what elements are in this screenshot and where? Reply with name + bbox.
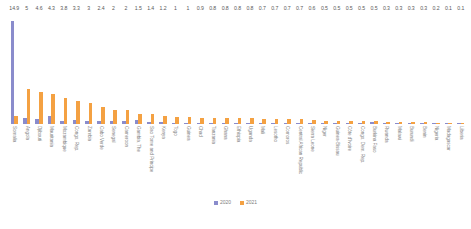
bar-2021 xyxy=(200,118,204,124)
x-label-cell: Djibouti xyxy=(33,125,45,187)
bar-2021 xyxy=(411,122,415,124)
bar-value-label: 3.3 xyxy=(73,6,80,11)
bar-group: 0.1 xyxy=(455,6,467,124)
bar-value-label: 0.1 xyxy=(445,6,452,11)
x-axis-tick-label: Central African Republic xyxy=(297,126,302,174)
x-label-cell: Rwanda xyxy=(380,125,392,187)
x-label-cell: Mali xyxy=(256,125,268,187)
x-axis-tick-label: Somalia xyxy=(12,126,17,142)
x-label-cell: Tanzania xyxy=(207,125,219,187)
x-label-cell: Guinea-Bissau xyxy=(331,125,343,187)
bars-wrap xyxy=(293,12,305,124)
bar-group: 1.4 xyxy=(144,6,156,124)
bar-2021 xyxy=(386,122,390,124)
bars-wrap xyxy=(120,12,132,124)
bars-wrap xyxy=(157,12,169,124)
x-label-cell: Comoros xyxy=(281,125,293,187)
x-axis-tick-label: Liberia xyxy=(459,126,464,139)
x-axis-tick-label: Chad xyxy=(198,126,203,137)
bar-group: 0.5 xyxy=(355,6,367,124)
x-label-cell: Uganda xyxy=(244,125,256,187)
bar-2021 xyxy=(324,121,328,124)
bar-value-label: 0.5 xyxy=(371,6,378,11)
x-label-cell: Guinea xyxy=(182,125,194,187)
bar-value-label: 14.9 xyxy=(9,6,19,11)
legend-item-2021[interactable]: 2021 xyxy=(240,200,257,205)
x-label-cell: Malawi xyxy=(393,125,405,187)
x-label-cell: Chad xyxy=(194,125,206,187)
x-label-cell: Lesotho xyxy=(269,125,281,187)
bar-value-label: 2.4 xyxy=(98,6,105,11)
x-label-cell: Benin xyxy=(417,125,429,187)
x-axis-tick-label: Madagascar xyxy=(446,126,451,151)
legend-swatch-icon xyxy=(214,201,218,205)
bar-2021 xyxy=(76,101,80,124)
bars-wrap xyxy=(417,12,429,124)
x-label-cell: Congo, Rep. xyxy=(70,125,82,187)
x-label-cell: Gambia, The xyxy=(132,125,144,187)
x-axis-tick-label: Burundi xyxy=(409,126,414,141)
bar-value-label: 4.6 xyxy=(36,6,43,11)
chart-legend: 20202021 xyxy=(0,200,471,205)
bars-wrap xyxy=(231,12,243,124)
bars-wrap xyxy=(70,12,82,124)
bar-group: 0.3 xyxy=(393,6,405,124)
x-axis-tick-label: Lesotho xyxy=(272,126,277,142)
bar-value-label: 1.2 xyxy=(160,6,167,11)
x-axis-tick-label: Angola xyxy=(24,126,29,140)
x-axis-tick-label: Comoros xyxy=(285,126,290,144)
bar-group: 0.5 xyxy=(318,6,330,124)
x-axis-tick-label: Gambia, The xyxy=(136,126,141,152)
x-axis-tick-label: Rwanda xyxy=(384,126,389,143)
bars-wrap xyxy=(20,12,32,124)
bars-wrap xyxy=(169,12,181,124)
bar-value-label: 0.8 xyxy=(222,6,229,11)
bar-2021 xyxy=(448,123,452,124)
bar-2021 xyxy=(362,121,366,124)
bar-group: 0.3 xyxy=(405,6,417,124)
bar-2021 xyxy=(213,118,217,124)
bars-wrap xyxy=(45,12,57,124)
bar-group: 1.2 xyxy=(157,6,169,124)
x-label-cell: Niger xyxy=(318,125,330,187)
x-label-cell: Senegal xyxy=(107,125,119,187)
x-axis-tick-label: Congo, Rep. xyxy=(74,126,79,151)
bar-2021 xyxy=(337,121,341,124)
bar-2021 xyxy=(151,114,155,124)
bars-wrap xyxy=(405,12,417,124)
x-axis-tick-label: Senegal xyxy=(111,126,116,143)
x-axis-tick-label: Sao Tome and Principe xyxy=(148,126,153,172)
bars-wrap xyxy=(132,12,144,124)
bar-value-label: 3 xyxy=(87,6,90,11)
bar-value-label: 0.8 xyxy=(209,6,216,11)
bar-value-label: 4.3 xyxy=(48,6,55,11)
bars-wrap xyxy=(8,12,20,124)
x-label-cell: Cameroon xyxy=(120,125,132,187)
x-axis-tick-label: Ethiopia xyxy=(235,126,240,142)
legend-item-2020[interactable]: 2020 xyxy=(214,200,231,205)
bar-value-label: 3.8 xyxy=(60,6,67,11)
bar-value-label: 0.3 xyxy=(383,6,390,11)
bar-2021 xyxy=(312,120,316,124)
bar-2021 xyxy=(275,119,279,124)
bars-wrap xyxy=(58,12,70,124)
x-axis-tick-label: Nigeria xyxy=(434,126,439,140)
x-axis-tick-label: Malawi xyxy=(397,126,402,140)
bar-2021 xyxy=(262,119,266,124)
bar-2021 xyxy=(238,118,242,124)
x-label-cell: Burundi xyxy=(405,125,417,187)
bar-value-label: 0.9 xyxy=(197,6,204,11)
bar-value-label: 0.7 xyxy=(284,6,291,11)
x-axis-tick-label: Benin xyxy=(421,126,426,138)
bar-group: 5 xyxy=(20,6,32,124)
x-axis-tick-label: Cameroon xyxy=(124,126,129,147)
bars-wrap xyxy=(380,12,392,124)
x-label-cell: Ethiopia xyxy=(231,125,243,187)
bar-2021 xyxy=(424,122,428,124)
x-axis-tick-label: Zambia xyxy=(86,126,91,141)
bar-value-label: 1.4 xyxy=(147,6,154,11)
bars-wrap xyxy=(455,12,467,124)
bars-wrap xyxy=(219,12,231,124)
bars-wrap xyxy=(144,12,156,124)
plot-area: 14.954.64.33.83.332.4221.51.41.2110.90.8… xyxy=(8,6,467,124)
